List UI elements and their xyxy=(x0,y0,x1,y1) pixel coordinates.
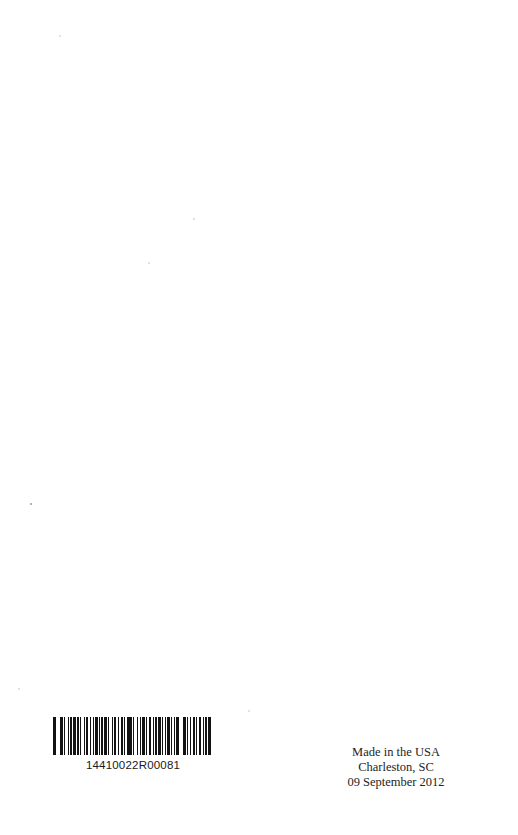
scan-speck xyxy=(59,35,61,37)
imprint-line-city: Charleston, SC xyxy=(316,760,476,775)
barcode-block: 14410022R00081 xyxy=(53,717,213,772)
barcode-gap xyxy=(211,717,213,755)
back-cover-page: 14410022R00081 Made in the USA Charlesto… xyxy=(0,0,518,835)
imprint-block: Made in the USA Charleston, SC 09 Septem… xyxy=(316,745,476,790)
imprint-line-date: 09 September 2012 xyxy=(316,775,476,790)
scan-speck xyxy=(18,688,20,690)
barcode-number: 14410022R00081 xyxy=(53,759,213,772)
barcode-bars xyxy=(53,717,213,755)
scan-speck xyxy=(30,503,32,505)
scan-speck xyxy=(148,262,150,264)
scan-speck xyxy=(248,710,250,712)
imprint-line-made-in: Made in the USA xyxy=(316,745,476,760)
scan-speck xyxy=(193,218,195,220)
